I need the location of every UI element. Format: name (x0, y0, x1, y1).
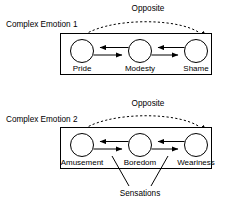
annotation-label-sensations: Sensations (120, 189, 161, 198)
node-circle-shame (185, 40, 208, 63)
group-title-1: Complex Emotion 1 (6, 20, 78, 29)
node-circle-modesty (129, 40, 152, 63)
relation-label-opposite-1: Opposite (132, 4, 165, 13)
node-label-pride: Pride (73, 64, 92, 73)
node-label-amusement: Amusement (61, 158, 104, 167)
relation-label-opposite-2: Opposite (132, 99, 165, 108)
node-label-boredom: Boredom (124, 158, 157, 167)
group-complex-emotion-2: Opposite Complex Emotion 2 Amusement Bor… (6, 99, 215, 198)
node-circle-amusement (71, 134, 94, 157)
node-label-modesty: Modesty (125, 64, 155, 73)
node-label-weariness: Weariness (177, 158, 215, 167)
node-circle-pride (71, 40, 94, 63)
node-circle-weariness (185, 134, 208, 157)
group-title-2: Complex Emotion 2 (6, 115, 78, 124)
node-circle-boredom (129, 134, 152, 157)
diagram-root: Opposite Complex Emotion 1 Pride Modesty… (0, 0, 230, 205)
node-label-shame: Shame (183, 64, 209, 73)
diagram-canvas: Opposite Complex Emotion 1 Pride Modesty… (0, 0, 230, 205)
group-complex-emotion-1: Opposite Complex Emotion 1 Pride Modesty… (6, 4, 212, 75)
